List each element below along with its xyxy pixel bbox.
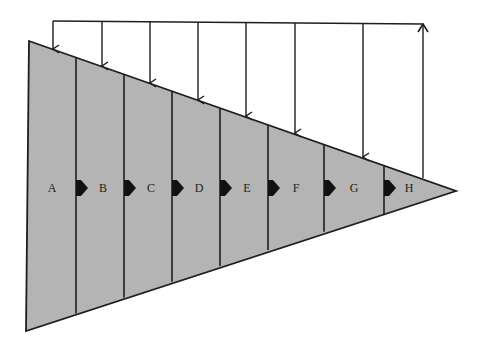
segment-label-b: B [99,181,107,195]
feedback-bus-line [53,21,423,24]
segment-label-c: C [147,181,155,195]
wedge-diagram: A B C D E F G H [0,0,482,352]
segment-label-h: H [405,181,414,195]
segment-label-a: A [48,181,57,195]
segment-label-d: D [195,181,204,195]
segment-label-f: F [293,181,300,195]
segment-label-g: G [350,181,359,195]
segment-label-e: E [243,181,250,195]
